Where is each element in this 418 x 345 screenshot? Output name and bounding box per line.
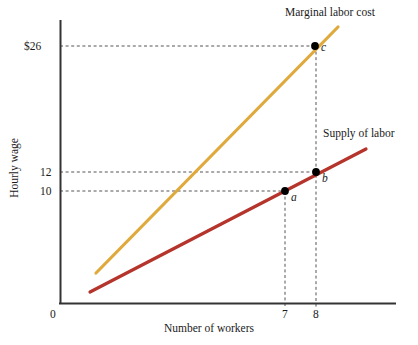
y-tick-label-26: $26 bbox=[24, 40, 41, 52]
labor-market-chart: $26 12 10 0 7 8 Number of workers Hourly… bbox=[0, 0, 418, 345]
dashed-guides bbox=[60, 46, 316, 307]
point-label-b: b bbox=[322, 172, 328, 184]
data-point-c bbox=[311, 42, 319, 50]
y-axis-title: Hourly wage bbox=[8, 118, 20, 218]
y-tick-label-10: 10 bbox=[40, 185, 52, 197]
curve-label-marginal-labor-cost: Marginal labor cost bbox=[285, 6, 375, 18]
data-point-b bbox=[312, 168, 320, 176]
y-tick-label-12: 12 bbox=[40, 166, 52, 178]
x-tick-label-0: 0 bbox=[50, 308, 56, 320]
x-tick-label-7: 7 bbox=[282, 308, 288, 320]
point-label-a: a bbox=[291, 191, 297, 203]
point-label-c: c bbox=[321, 41, 326, 53]
data-point-a bbox=[281, 187, 289, 195]
curve-marginal-labor-cost bbox=[96, 27, 338, 273]
x-tick-label-8: 8 bbox=[313, 308, 319, 320]
x-axis-title: Number of workers bbox=[0, 322, 418, 334]
curve-supply-of-labor bbox=[90, 149, 366, 292]
curve-label-supply-of-labor: Supply of labor bbox=[323, 127, 395, 139]
chart-plot-area bbox=[0, 0, 418, 345]
